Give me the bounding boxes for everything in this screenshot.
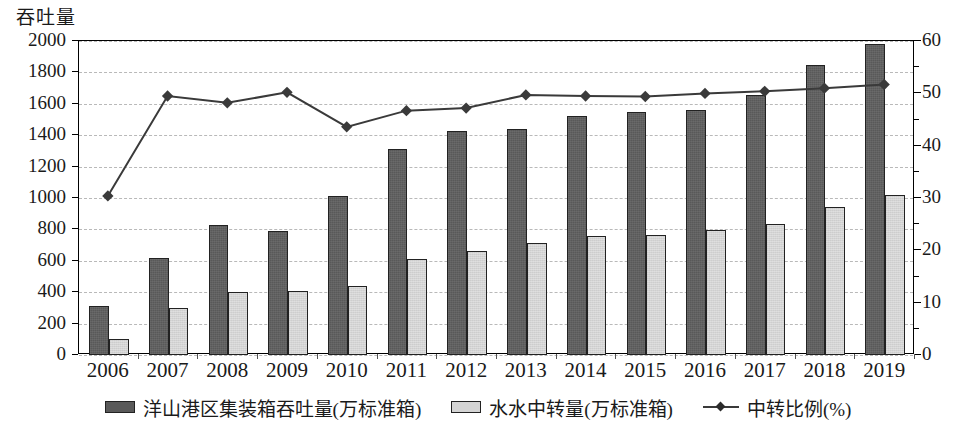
bar-throughput xyxy=(89,306,109,355)
bar-throughput xyxy=(328,196,348,355)
y-axis-left-tick-label: 200 xyxy=(4,313,66,332)
light-bar-swatch-icon xyxy=(451,401,481,413)
x-axis-tick-label: 2014 xyxy=(554,358,618,383)
y-axis-left-tick-mark xyxy=(72,166,78,167)
legend-label-throughput: 洋山港区集装箱吞吐量(万标准箱) xyxy=(143,394,422,421)
gridline xyxy=(79,324,913,325)
gridlines xyxy=(79,41,913,353)
y-axis-left-tick-mark xyxy=(72,197,78,198)
gridline xyxy=(79,229,913,230)
y-axis-right-tick-label: 10 xyxy=(922,292,956,311)
legend-label-transship-ratio: 中转比例(%) xyxy=(747,394,851,421)
bar-throughput xyxy=(627,112,647,355)
bar-throughput xyxy=(209,225,229,355)
bar-throughput xyxy=(865,44,885,355)
chart-legend: 洋山港区集装箱吞吐量(万标准箱) 水水中转量(万标准箱) 中转比例(%) xyxy=(0,392,956,422)
dark-bar-swatch-icon xyxy=(105,401,135,413)
bar-transship-volume xyxy=(706,230,726,355)
y-axis-right-minor-tick-mark xyxy=(914,119,919,120)
bar-transship-volume xyxy=(587,236,607,355)
bar-transship-volume xyxy=(288,291,308,355)
bar-transship-volume xyxy=(825,207,845,355)
gridline xyxy=(79,135,913,136)
y-axis-right-tick-mark xyxy=(914,145,921,146)
y-axis-left-tick-label: 800 xyxy=(4,218,66,237)
y-axis-left-tick-label: 1600 xyxy=(4,93,66,112)
bar-throughput xyxy=(268,231,288,355)
y-axis-left-tick-mark xyxy=(72,354,78,355)
y-axis-right-tick-mark xyxy=(914,92,921,93)
y-axis-right-tick-mark xyxy=(914,40,921,41)
x-axis-tick-label: 2010 xyxy=(315,358,379,383)
bar-transship-volume xyxy=(766,224,786,355)
y-axis-right-minor-tick-mark xyxy=(914,276,919,277)
y-axis-left-tick-mark xyxy=(72,40,78,41)
y-axis-right-tick-mark xyxy=(914,249,921,250)
line-marker-swatch-icon xyxy=(703,401,739,413)
x-axis-tick-label: 2017 xyxy=(733,358,797,383)
x-axis-tick-label: 2006 xyxy=(76,358,140,383)
y-axis-right-tick-label: 30 xyxy=(922,187,956,206)
gridline xyxy=(79,72,913,73)
y-axis-left-tick-label: 600 xyxy=(4,250,66,269)
x-axis-tick-label: 2012 xyxy=(434,358,498,383)
y-axis-right-tick-mark xyxy=(914,354,921,355)
x-axis-tick-label: 2009 xyxy=(255,358,319,383)
y-axis-left-tick-label: 1400 xyxy=(4,124,66,143)
legend-label-transship-volume: 水水中转量(万标准箱) xyxy=(489,394,673,421)
y-axis-right-tick-label: 50 xyxy=(922,82,956,101)
y-axis-left-tick-label: 1000 xyxy=(4,187,66,206)
y-axis-right-tick-mark xyxy=(914,302,921,303)
y-axis-left-tick-mark xyxy=(72,71,78,72)
plot-area xyxy=(78,40,914,354)
bar-throughput xyxy=(806,65,826,355)
x-axis-tick-mark xyxy=(914,354,915,359)
bar-throughput xyxy=(447,131,467,355)
y-axis-right-tick-label: 60 xyxy=(922,30,956,49)
bar-throughput xyxy=(388,149,408,355)
bar-transship-volume xyxy=(407,259,427,355)
bar-transship-volume xyxy=(169,308,189,355)
y-axis-left-tick-label: 0 xyxy=(4,344,66,363)
legend-item-transship-ratio[interactable]: 中转比例(%) xyxy=(703,394,851,421)
y-axis-left-tick-label: 1200 xyxy=(4,156,66,175)
bar-throughput xyxy=(507,129,527,355)
gridline xyxy=(79,198,913,199)
y-axis-left-tick-label: 1800 xyxy=(4,61,66,80)
y-axis-left-tick-mark xyxy=(72,260,78,261)
x-axis-tick-label: 2018 xyxy=(792,358,856,383)
x-axis-tick-label: 2008 xyxy=(195,358,259,383)
bar-transship-volume xyxy=(467,251,487,355)
x-axis-tick-label: 2015 xyxy=(613,358,677,383)
bar-throughput xyxy=(149,258,169,355)
bar-transship-volume xyxy=(527,243,547,355)
y-axis-title: 吞吐量 xyxy=(16,2,76,29)
bar-throughput xyxy=(686,110,706,355)
y-axis-left-tick-mark xyxy=(72,103,78,104)
chart-container: 吞吐量 200018001600140012001000800600400200… xyxy=(0,0,956,424)
y-axis-left-tick-label: 400 xyxy=(4,281,66,300)
x-axis-tick-label: 2016 xyxy=(673,358,737,383)
gridline xyxy=(79,41,913,42)
bar-transship-volume xyxy=(646,235,666,355)
bar-transship-volume xyxy=(885,195,905,355)
y-axis-left-tick-label: 2000 xyxy=(4,30,66,49)
x-axis-tick-label: 2011 xyxy=(374,358,438,383)
y-axis-right-tick-label: 20 xyxy=(922,239,956,258)
gridline xyxy=(79,292,913,293)
legend-item-throughput[interactable]: 洋山港区集装箱吞吐量(万标准箱) xyxy=(105,394,422,421)
gridline xyxy=(79,104,913,105)
y-axis-right-minor-tick-mark xyxy=(914,171,919,172)
x-axis-tick-label: 2007 xyxy=(136,358,200,383)
y-axis-left-tick-mark xyxy=(72,323,78,324)
x-axis-tick-label: 2013 xyxy=(494,358,558,383)
legend-item-transship-volume[interactable]: 水水中转量(万标准箱) xyxy=(451,394,673,421)
bar-transship-volume xyxy=(109,339,129,355)
x-axis-tick-label: 2019 xyxy=(852,358,916,383)
bar-transship-volume xyxy=(348,286,368,355)
y-axis-right-tick-label: 40 xyxy=(922,135,956,154)
y-axis-right-tick-label: 0 xyxy=(922,344,956,363)
y-axis-left-tick-mark xyxy=(72,134,78,135)
gridline xyxy=(79,261,913,262)
y-axis-right-tick-mark xyxy=(914,197,921,198)
